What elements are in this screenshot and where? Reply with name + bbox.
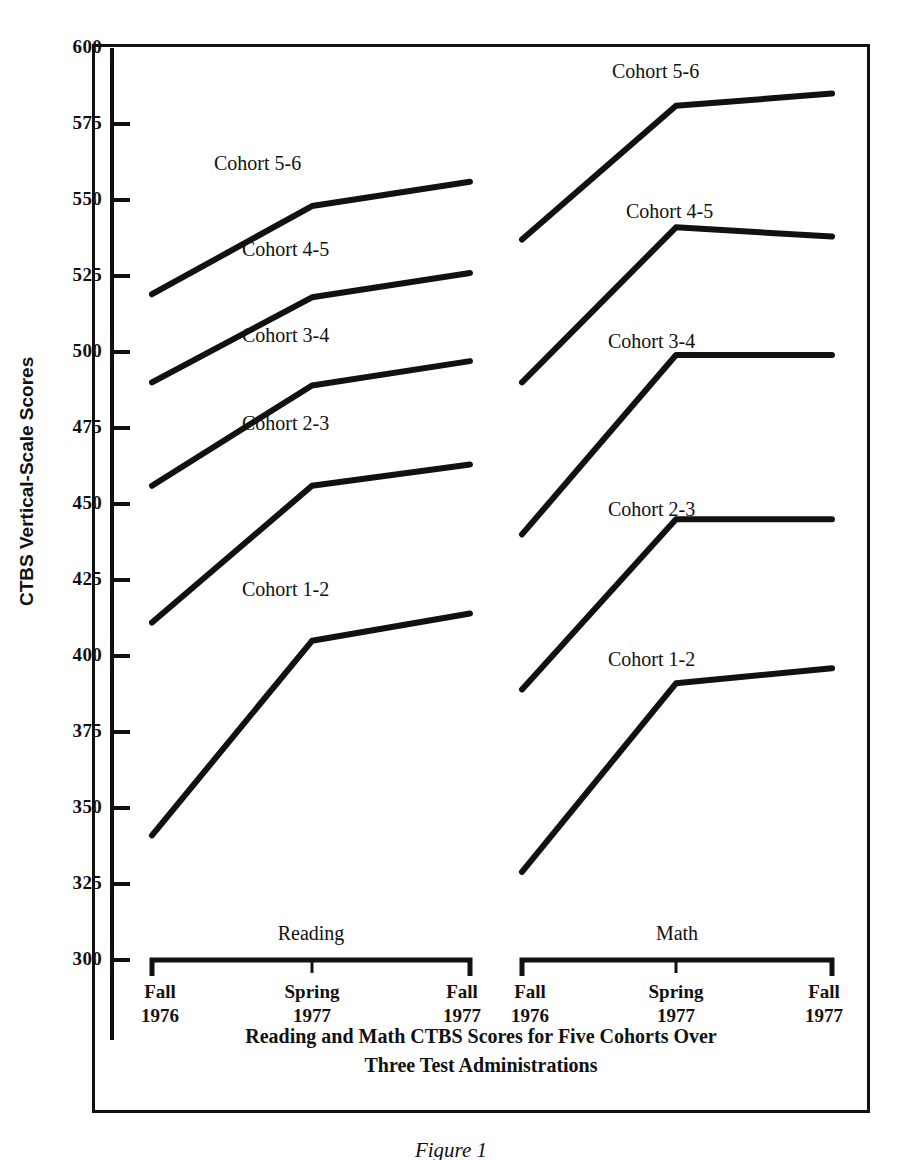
series-label-reading-cohort-5-6: Cohort 5-6 bbox=[214, 152, 301, 175]
y-tick-label: 550 bbox=[42, 188, 102, 210]
series-label-math-cohort-3-4: Cohort 3-4 bbox=[608, 330, 695, 353]
x-tick-season: Fall bbox=[446, 981, 478, 1002]
y-tick-label: 400 bbox=[42, 644, 102, 666]
series-label-math-cohort-4-5: Cohort 4-5 bbox=[626, 200, 713, 223]
plot-frame-border bbox=[92, 44, 870, 1113]
x-tick-label-reading-0: Fall1976 bbox=[110, 980, 210, 1028]
x-tick-label-math-2: Fall1977 bbox=[774, 980, 874, 1028]
y-tick-label: 425 bbox=[42, 568, 102, 590]
y-tick-label: 300 bbox=[42, 948, 102, 970]
series-label-reading-cohort-3-4: Cohort 3-4 bbox=[242, 324, 329, 347]
x-tick-label-math-1: Spring1977 bbox=[626, 980, 726, 1028]
x-tick-season: Spring bbox=[285, 981, 340, 1002]
x-tick-season: Spring bbox=[649, 981, 704, 1002]
y-tick-label: 525 bbox=[42, 264, 102, 286]
series-label-math-cohort-2-3: Cohort 2-3 bbox=[608, 498, 695, 521]
y-tick-label: 325 bbox=[42, 872, 102, 894]
y-axis-title: CTBS Vertical-Scale Scores bbox=[16, 376, 38, 606]
caption-line-1: Reading and Math CTBS Scores for Five Co… bbox=[92, 1022, 870, 1051]
y-tick-label: 375 bbox=[42, 720, 102, 742]
y-tick-label: 450 bbox=[42, 492, 102, 514]
x-tick-label-reading-1: Spring1977 bbox=[262, 980, 362, 1028]
panel-label-reading: Reading bbox=[221, 922, 401, 945]
x-tick-season: Fall bbox=[514, 981, 546, 1002]
chart-caption: Reading and Math CTBS Scores for Five Co… bbox=[92, 1022, 870, 1080]
x-tick-season: Fall bbox=[144, 981, 176, 1002]
panel-label-math: Math bbox=[587, 922, 767, 945]
y-tick-label: 600 bbox=[42, 36, 102, 58]
y-tick-label: 575 bbox=[42, 112, 102, 134]
series-label-math-cohort-1-2: Cohort 1-2 bbox=[608, 648, 695, 671]
series-label-math-cohort-5-6: Cohort 5-6 bbox=[612, 60, 699, 83]
series-label-reading-cohort-4-5: Cohort 4-5 bbox=[242, 238, 329, 261]
caption-line-2: Three Test Administrations bbox=[92, 1051, 870, 1080]
y-tick-label: 500 bbox=[42, 340, 102, 362]
x-tick-season: Fall bbox=[808, 981, 840, 1002]
figure-number-label: Figure 1 bbox=[0, 1138, 902, 1160]
y-tick-label: 350 bbox=[42, 796, 102, 818]
figure-root: CTBS Vertical-Scale Scores 6005755505255… bbox=[0, 0, 902, 1160]
series-label-reading-cohort-1-2: Cohort 1-2 bbox=[242, 578, 329, 601]
series-label-reading-cohort-2-3: Cohort 2-3 bbox=[242, 412, 329, 435]
x-tick-label-math-0: Fall1976 bbox=[480, 980, 580, 1028]
y-tick-label: 475 bbox=[42, 416, 102, 438]
